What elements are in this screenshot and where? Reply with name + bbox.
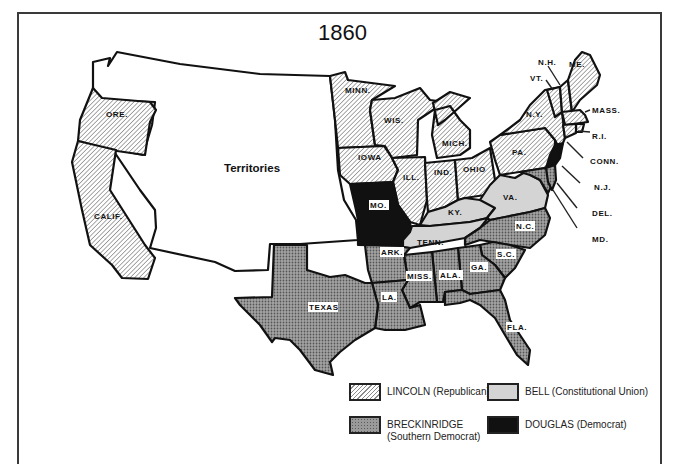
- label-md: MD.: [592, 235, 608, 244]
- legend-label-bell: BELL (Constitutional Union): [525, 386, 648, 398]
- callout-conn: [567, 142, 583, 158]
- label-ny: N.Y.: [526, 110, 543, 119]
- legend-item-bell: BELL (Constitutional Union): [487, 383, 648, 401]
- douglas-swatch: [487, 416, 519, 434]
- label-miss: MISS.: [407, 272, 432, 281]
- label-ind: IND.: [434, 168, 452, 177]
- callout-del: [557, 183, 577, 208]
- label-va: VA.: [503, 193, 518, 202]
- label-pa: PA.: [512, 148, 527, 157]
- state-massachusetts: [562, 110, 588, 125]
- label-nj: N.J.: [594, 183, 611, 192]
- label-mo: MO.: [370, 201, 387, 210]
- label-fla: FLA.: [507, 323, 527, 332]
- label-la: LA.: [382, 293, 397, 302]
- label-mass: MASS.: [592, 106, 620, 115]
- legend-label-breckinridge-line2: (Southern Democrat): [387, 431, 480, 443]
- label-ore: ORE.: [106, 110, 128, 119]
- label-mich: MICH.: [442, 139, 468, 148]
- label-ala: ALA.: [440, 271, 461, 280]
- state-connecticut: [563, 124, 576, 138]
- label-territories: Territories: [224, 162, 280, 174]
- label-ga: GA.: [471, 263, 487, 272]
- map-legend: LINCOLN (Republican) BELL (Constitutiona…: [345, 379, 665, 459]
- legend-item-breckinridge: BRECKINRIDGE (Southern Democrat): [349, 416, 480, 443]
- label-nh: N.H.: [538, 58, 556, 67]
- label-iowa: IOWA: [358, 153, 382, 162]
- breckinridge-swatch: [349, 416, 381, 434]
- legend-label-breckinridge-line1: BRECKINRIDGE: [387, 419, 480, 431]
- label-ky: KY.: [448, 208, 462, 217]
- label-wis: WIS.: [384, 116, 404, 125]
- label-minn: MINN.: [345, 86, 371, 95]
- legend-label-breckinridge: BRECKINRIDGE (Southern Democrat): [387, 419, 480, 443]
- legend-label-douglas: DOUGLAS (Democrat): [525, 419, 627, 431]
- legend-item-douglas: DOUGLAS (Democrat): [487, 416, 627, 434]
- callout-md: [553, 190, 577, 228]
- label-sc: S.C.: [497, 250, 515, 259]
- label-ill: ILL.: [403, 173, 420, 182]
- label-me: ME.: [569, 60, 585, 69]
- callout-mass: [585, 110, 590, 112]
- label-ri: R.I.: [592, 132, 607, 141]
- state-iowa: [338, 146, 398, 184]
- label-del: DEL.: [592, 209, 613, 218]
- lincoln-swatch: [349, 383, 381, 401]
- label-tenn: TENN.: [417, 238, 444, 247]
- label-ohio: OHIO: [463, 165, 486, 174]
- label-nc: N.C.: [516, 222, 534, 231]
- callout-nh: [548, 66, 560, 85]
- bell-swatch: [487, 383, 519, 401]
- label-texas: TEXAS: [309, 303, 339, 312]
- label-vt: VT.: [530, 74, 543, 83]
- legend-label-lincoln: LINCOLN (Republican): [387, 386, 490, 398]
- legend-item-lincoln: LINCOLN (Republican): [349, 383, 490, 401]
- label-calif: CALIF.: [94, 212, 123, 221]
- callout-nj: [562, 166, 580, 183]
- callout-ri: [578, 131, 590, 132]
- state-michigan: [432, 92, 470, 158]
- label-ark: ARK.: [381, 248, 403, 257]
- label-conn: CONN.: [590, 157, 619, 166]
